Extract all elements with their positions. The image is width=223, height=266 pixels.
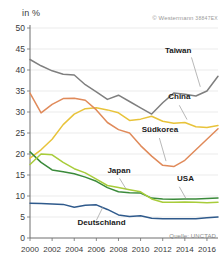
label-leader-sdkorea [159,138,166,161]
y-axis-tick-label: 35 [16,86,26,96]
series-label-deutschland: Deutschland [78,218,126,227]
y-axis-tick-label: 0 [20,233,25,243]
y-axis-tick-label: 25 [16,128,26,138]
x-axis-tick-label: 2002 [43,245,61,254]
series-line-sdkorea [30,93,218,167]
series-label-usa: USA [177,174,194,183]
x-axis-tick-label: 2014 [176,245,194,254]
x-axis-tick-label: 2004 [65,245,83,254]
x-axis-tick-label: 2006 [87,245,105,254]
y-axis-tick-label: 20 [16,149,26,159]
y-axis-tick-label: 40 [16,65,26,75]
y-axis-tick-label: 15 [16,170,26,180]
y-axis-tick-label: 5 [20,212,25,222]
label-leader-china [179,105,187,119]
label-leader-taiwan [191,57,200,86]
x-axis-tick-label: 2008 [110,245,128,254]
x-axis-tick-label: 2012 [154,245,172,254]
series-label-japan: Japan [107,166,130,175]
x-axis-tick-label: 2010 [132,245,150,254]
series-label-sdkorea: Südkorea [142,125,179,134]
chart-container: in % © Westermann 38847EX Quelle: UNCTAD… [0,0,223,266]
x-axis-tick-label: 2000 [21,245,39,254]
x-axis-tick-label: 2016 [198,245,216,254]
series-line-taiwan [30,60,218,115]
y-axis-tick-label: 10 [16,191,26,201]
line-chart-plot: 0510152025303540455020002002200420062008… [0,0,223,266]
y-axis-tick-label: 30 [16,107,26,117]
series-label-taiwan: Taiwan [165,46,192,55]
y-axis-tick-label: 50 [16,23,26,33]
series-line-deutschland [30,203,218,219]
label-leader-usa [179,187,186,199]
series-label-china: China [168,92,191,101]
y-axis-tick-label: 45 [16,44,26,54]
